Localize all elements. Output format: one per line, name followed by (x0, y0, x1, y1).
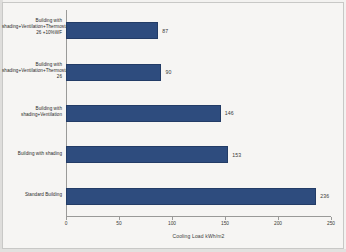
x-tick-0 (66, 217, 67, 220)
bar-1[interactable] (66, 64, 161, 81)
bar-row-1: 90 (66, 51, 331, 92)
x-tick-label-50: 50 (116, 221, 121, 226)
x-tick-50 (119, 217, 120, 220)
x-tick-label-200: 200 (274, 221, 282, 226)
bar-3[interactable] (66, 146, 228, 163)
x-tick-label-100: 100 (168, 221, 176, 226)
x-tick-label-250: 250 (327, 221, 335, 226)
x-axis-tick-labels: 050100150200250 (66, 221, 331, 230)
x-tick-250 (331, 217, 332, 220)
bar-2[interactable] (66, 105, 221, 122)
bar-value-0: 87 (162, 28, 168, 34)
x-tick-100 (172, 217, 173, 220)
bar-value-4: 236 (320, 193, 329, 199)
category-label-4: Standard Building (2, 192, 62, 198)
bar-row-0: 87 (66, 10, 331, 51)
bar-0[interactable] (66, 22, 158, 39)
x-axis-title: Cooling Load kWh/m2 (66, 233, 331, 239)
cooling-load-bar-chart: Building with shading+Ventilation+Thermo… (0, 0, 346, 252)
category-label-0: Building with shading+Ventilation+Thermo… (2, 18, 62, 37)
bar-4[interactable] (66, 188, 316, 205)
category-label-3: Building with shading (2, 151, 62, 157)
x-tick-label-0: 0 (65, 221, 68, 226)
bar-row-4: 236 (66, 176, 331, 217)
bar-row-3: 153 (66, 134, 331, 175)
x-tick-150 (225, 217, 226, 220)
category-label-1: Building with shading+Ventilation+Thermo… (2, 62, 62, 81)
category-axis-labels: Building with shading+Ventilation+Thermo… (2, 10, 64, 217)
x-tick-200 (278, 217, 279, 220)
category-label-2: Building with shading+Ventilation (2, 106, 62, 118)
bar-series: 87 90 146 153 236 (66, 10, 331, 217)
bar-row-2: 146 (66, 93, 331, 134)
x-tick-label-150: 150 (221, 221, 229, 226)
bar-value-2: 146 (225, 110, 234, 116)
bar-value-1: 90 (165, 69, 171, 75)
bar-value-3: 153 (232, 152, 241, 158)
